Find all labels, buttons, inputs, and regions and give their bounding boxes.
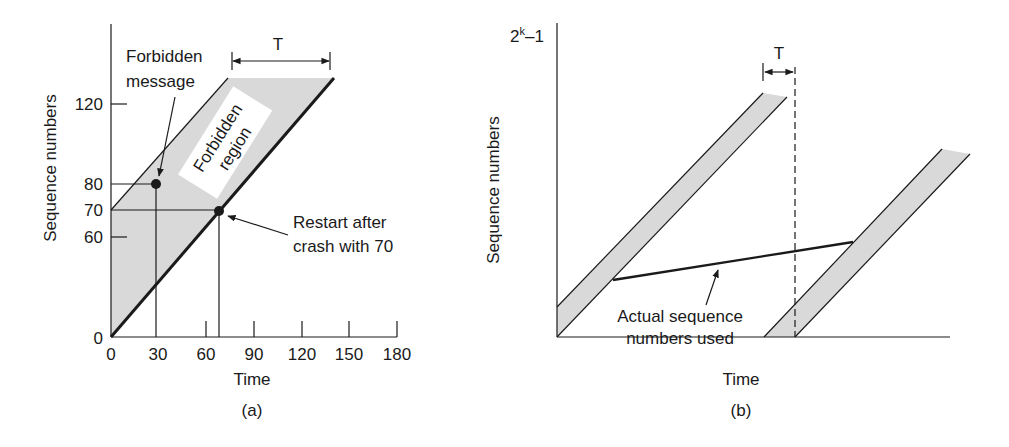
x-tick-label-150: 150 (335, 345, 363, 364)
actual-sequence-arrow (706, 270, 718, 305)
x-tick-label-120: 120 (288, 345, 316, 364)
forbidden-message-point (151, 179, 161, 189)
x-tick-label-180: 180 (383, 345, 411, 364)
band-1-upper-edge (557, 93, 763, 307)
figure: 120 80 70 60 0 0 30 60 90 120 150 180 Ti… (0, 0, 1009, 447)
panel-caption: (a) (242, 401, 263, 420)
x-tick-label-60: 60 (197, 345, 216, 364)
band-1-lower-edge (557, 97, 787, 337)
t-label-b: T (774, 44, 784, 63)
y-axis-label: Sequence numbers (41, 94, 60, 241)
y-tick-label-0: 0 (94, 329, 103, 348)
y-tick-label-70: 70 (84, 201, 103, 220)
forbidden-message-label-line2: message (126, 72, 195, 91)
restart-label-line1: Restart after (293, 213, 387, 232)
panel-b: T Actual sequence numbers used 2k–1 Sequ… (484, 23, 970, 420)
x-axis-label: Time (233, 370, 270, 389)
x-tick-label-30: 30 (149, 345, 168, 364)
band-2-lower-edge (795, 154, 970, 337)
y-tick-label-80: 80 (84, 175, 103, 194)
restart-label-line2: crash with 70 (293, 237, 393, 256)
y-max-base: 2 (510, 27, 519, 46)
y-axis-label-b: Sequence numbers (484, 116, 503, 263)
t-label: T (273, 35, 283, 54)
x-tick-label-0: 0 (106, 345, 115, 364)
x-axis-label-b: Time (722, 370, 759, 389)
y-tick-label-60: 60 (84, 228, 103, 247)
forbidden-message-label-line1: Forbidden (126, 47, 203, 66)
restart-point (214, 206, 224, 216)
y-tick-label-120: 120 (75, 95, 103, 114)
y-max-label: 2k–1 (510, 25, 544, 46)
x-tick-label-90: 90 (245, 345, 264, 364)
actual-sequence-label-line1: Actual sequence (617, 307, 743, 326)
actual-sequence-label-line2: numbers used (626, 329, 734, 348)
actual-sequence-line (613, 242, 853, 280)
panel-a: 120 80 70 60 0 0 30 60 90 120 150 180 Ti… (41, 24, 411, 420)
y-max-suffix: –1 (525, 27, 544, 46)
panel-caption-b: (b) (731, 401, 752, 420)
restart-arrow (228, 216, 288, 235)
